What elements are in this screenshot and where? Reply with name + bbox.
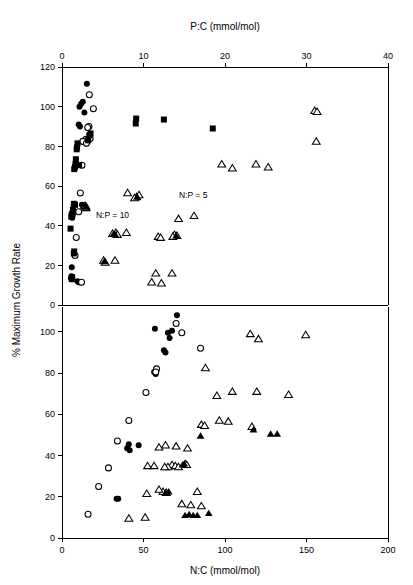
top-point-open-triangle [122,229,130,235]
bottom-x-tick-label: 100 [217,545,232,555]
bottom-point-open-triangle [162,442,170,448]
top-point-filled-square [69,276,75,282]
top-y-tick-label: 120 [40,62,55,72]
bottom-point-filled-circle [152,326,158,332]
top-point-filled-square [133,121,139,127]
bottom-point-filled-circle [136,442,142,448]
top-point-open-triangle [124,189,132,195]
bottom-x-tick-label: 150 [299,545,314,555]
bottom-point-open-triangle [178,500,186,506]
bottom-point-open-circle [153,369,159,375]
bottom-point-open-triangle [253,388,261,394]
top-y-tick-label: 20 [45,261,55,271]
bottom-point-open-triangle [155,486,163,492]
top-point-open-triangle [152,270,160,276]
bottom-point-open-circle [173,321,179,327]
top-point-open-triangle [158,280,166,286]
top-point-filled-circle [81,110,87,116]
bottom-point-open-circle [114,438,120,444]
bottom-y-tick-label: 0 [50,533,55,543]
bottom-y-tick-label: 40 [45,451,55,461]
bottom-point-open-triangle [141,514,149,520]
top-y-tick-label: 0 [50,300,55,310]
top-annotation: N:P = 10 [96,210,129,220]
bottom-point-open-triangle [246,330,254,336]
top-point-open-triangle [312,138,320,144]
bottom-y-tick-label: 80 [45,368,55,378]
bottom-point-open-circle [143,390,149,396]
bottom-point-open-circle [126,417,132,423]
bottom-point-open-triangle [285,391,293,397]
bottom-point-open-triangle [184,445,192,451]
top-x-tick-label: 10 [138,51,148,61]
y-axis-title: % Maximum Growth Rate [11,243,22,357]
bottom-point-open-triangle [255,335,263,341]
top-x-tick-label: 0 [59,51,64,61]
bottom-y-tick-label: 100 [40,327,55,337]
bottom-point-open-triangle [143,490,151,496]
top-point-open-circle [85,124,91,130]
bottom-point-open-triangle [125,515,133,521]
top-point-open-triangle [111,257,119,263]
top-point-filled-square [68,226,74,232]
bottom-x-tick-label: 0 [59,545,64,555]
top-point-open-circle [77,190,83,196]
bottom-point-open-triangle [193,488,201,494]
bottom-point-open-triangle [215,417,223,423]
bottom-point-filled-triangle [205,510,213,516]
bottom-point-filled-circle [174,312,180,318]
top-y-tick-label: 80 [45,142,55,152]
top-point-open-triangle [168,270,176,276]
top-x-tick-label: 20 [220,51,230,61]
bottom-point-open-triangle [172,443,180,449]
bottom-x-tick-label: 50 [138,545,148,555]
bottom-y-tick-label: 20 [45,492,55,502]
top-point-open-circle [90,106,96,112]
top-point-open-triangle [175,215,183,221]
bottom-point-open-triangle [144,462,152,468]
bottom-point-filled-triangle [267,430,275,436]
bottom-point-filled-triangle [273,430,281,436]
bottom-x-tick-label: 200 [380,545,395,555]
top-y-tick-label: 40 [45,221,55,231]
top-point-open-triangle [228,165,236,171]
top-x-tick-label: 30 [301,51,311,61]
top-point-open-triangle [252,161,260,167]
bottom-point-open-triangle [228,388,236,394]
bottom-point-open-circle [179,330,185,336]
top-point-filled-square [85,137,91,143]
top-y-tick-label: 100 [40,102,55,112]
bottom-point-open-circle [85,511,91,517]
top-point-open-triangle [190,212,198,218]
top-point-open-circle [76,209,82,215]
bottom-point-open-circle [198,345,204,351]
bottom-point-open-triangle [224,418,232,424]
top-point-open-circle [73,235,79,241]
top-point-open-circle [86,92,92,98]
top-y-tick-label: 60 [45,181,55,191]
bottom-point-filled-circle [115,496,121,502]
bottom-point-open-circle [105,465,111,471]
top-point-filled-square [71,166,77,172]
top-x-tick-label: 40 [383,51,393,61]
top-point-filled-circle [84,81,90,87]
top-point-filled-square [161,117,167,123]
top-point-filled-circle [77,104,83,110]
top-point-filled-square [71,250,77,256]
bottom-point-filled-circle [167,335,173,341]
bottom-point-filled-circle [165,330,171,336]
top-point-open-circle [79,279,85,285]
bottom-point-open-triangle [213,392,221,398]
top-point-filled-square [210,125,216,131]
bottom-x-axis-title: N:C (mmol/mol) [190,565,260,576]
bottom-point-open-circle [96,483,102,489]
bottom-point-open-triangle [302,331,310,337]
scatter-figure: 010203040020406080100120P:C (mmol/mol)N:… [0,0,413,585]
top-x-axis-title: P:C (mmol/mol) [190,21,259,32]
chart-canvas: 010203040020406080100120P:C (mmol/mol)N:… [0,0,413,585]
bottom-point-filled-circle [163,349,169,355]
top-point-filled-circle [69,264,75,270]
top-point-open-triangle [218,161,226,167]
top-annotation: N:P = 5 [179,190,208,200]
top-point-filled-square [74,146,80,152]
